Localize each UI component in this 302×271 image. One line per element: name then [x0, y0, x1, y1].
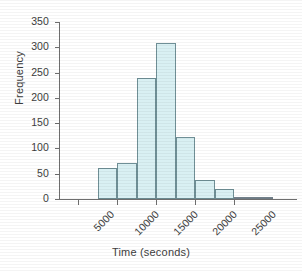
- histogram-bar: [117, 163, 137, 199]
- y-axis-tick: [55, 73, 59, 74]
- x-axis-tick: [195, 200, 196, 205]
- y-axis-tick: [55, 22, 59, 23]
- y-axis-tick-label: 250: [19, 66, 49, 78]
- x-axis-line: [59, 199, 297, 200]
- y-axis-tick-label: 200: [19, 91, 49, 103]
- y-axis-tick-label: 300: [19, 40, 49, 52]
- x-axis-tick-label: 25000: [249, 208, 278, 237]
- histogram-bar: [137, 78, 157, 199]
- x-axis-tick: [156, 200, 157, 205]
- y-axis-tick: [55, 174, 59, 175]
- histogram-bar: [156, 43, 176, 199]
- histogram-bar: [98, 168, 118, 199]
- x-axis-tick-label: 20000: [210, 208, 239, 237]
- x-axis-tick-label: 10000: [132, 208, 161, 237]
- y-axis-tick: [55, 47, 59, 48]
- y-axis-tick: [55, 98, 59, 99]
- x-axis-title: Time (seconds): [0, 246, 302, 258]
- y-axis-tick: [55, 199, 59, 200]
- x-axis-tick: [78, 200, 79, 205]
- y-axis-tick-label: 50: [19, 167, 49, 179]
- x-axis-tick-label: 5000: [91, 208, 116, 233]
- x-axis-tick-label: 15000: [171, 208, 200, 237]
- y-axis-tick-label: 150: [19, 116, 49, 128]
- histogram-bar: [215, 189, 235, 199]
- x-axis-tick: [234, 200, 235, 205]
- y-axis-tick-label: 100: [19, 141, 49, 153]
- histogram-bar: [195, 180, 215, 199]
- y-axis-tick-label: 350: [19, 15, 49, 27]
- y-axis-line: [59, 22, 60, 200]
- y-axis-tick: [55, 123, 59, 124]
- histogram-figure: Frequency Time (seconds) 050100150200250…: [0, 0, 302, 271]
- y-axis-tick-label: 0: [19, 192, 49, 204]
- x-axis-tick: [117, 200, 118, 205]
- y-axis-tick: [55, 148, 59, 149]
- histogram-bar: [176, 137, 196, 199]
